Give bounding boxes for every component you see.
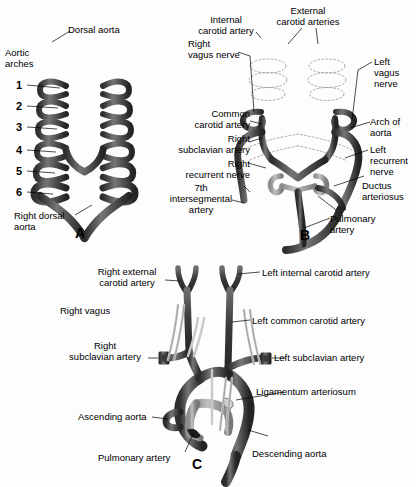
label-right-external-carotid-artery: Right external carotid artery <box>88 266 166 288</box>
arch-number-3: 3 <box>16 121 22 133</box>
aortic-arch-development-figure: Dorsal aorta Aortic arches Right dorsal … <box>0 0 416 487</box>
label-aortic-arches: Aortic arches <box>5 47 34 69</box>
label-right-subclavian-artery-c: Right subclavian artery <box>62 340 148 362</box>
label-7th-intersegmental-artery: 7th intersegmental artery <box>168 182 234 215</box>
label-right-subclavian-artery: Right subclavian artery <box>172 133 250 155</box>
label-right-dorsal-aorta: Right dorsal aorta <box>14 210 65 232</box>
label-internal-carotid-artery: Internal carotid artery <box>191 14 261 36</box>
label-left-common-carotid-artery: Left common carotid artery <box>252 315 365 326</box>
label-left-internal-carotid-artery: Left internal carotid artery <box>262 267 370 278</box>
label-left-subclavian-artery: Left subclavian artery <box>274 352 364 363</box>
label-ascending-aorta: Ascending aorta <box>78 411 147 422</box>
arch-number-6: 6 <box>16 186 22 198</box>
label-right-vagus-nerve: Right vagus nerve <box>188 38 240 60</box>
arch-number-1: 1 <box>16 79 22 91</box>
panel-letter-c: C <box>192 456 202 472</box>
label-ductus-arteriosus: Ductus arteriosus <box>362 180 404 202</box>
label-left-recurrent-nerve: Left recurrent nerve <box>370 144 408 177</box>
label-dorsal-aorta: Dorsal aorta <box>68 24 120 35</box>
label-arch-of-aorta: Arch of aorta <box>370 116 400 138</box>
figure-artwork <box>0 0 416 487</box>
arch-number-2: 2 <box>16 100 22 112</box>
label-right-recurrent-nerve: Right recurrent nerve <box>170 158 250 180</box>
panel-letter-b: B <box>300 227 310 243</box>
arch-number-4: 4 <box>16 144 22 156</box>
arch-number-5: 5 <box>16 165 22 177</box>
label-common-carotid-artery: Common carotid artery <box>180 108 250 130</box>
label-descending-aorta: Descending aorta <box>252 448 326 459</box>
label-pulmonary-artery-b: Pulmonary artery <box>330 213 375 235</box>
label-left-vagus-nerve: Left vagus nerve <box>374 56 399 89</box>
panel-letter-a: A <box>75 225 85 241</box>
label-pulmonary-artery-c: Pulmonary artery <box>98 452 170 463</box>
label-right-vagus: Right vagus <box>60 305 110 316</box>
label-external-carotid-arteries: External carotid arteries <box>262 5 354 27</box>
label-ligamentum-arteriosum: Ligamentum arteriosum <box>256 386 356 397</box>
